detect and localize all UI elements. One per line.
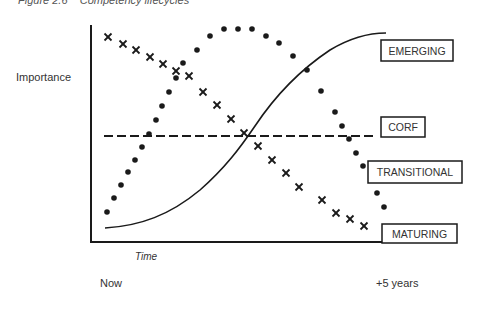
transitional-dot [153,117,159,123]
transitional-dot [132,157,138,163]
transitional-dot [207,33,213,39]
transitional-dot [381,204,387,210]
transitional-dot [180,60,186,66]
label-text: TRANSITIONAL [377,166,454,178]
maturing-x-mark [255,143,262,150]
transitional-dot [221,26,227,32]
maturing-x-mark [200,89,207,96]
transitional-dot [194,47,200,53]
maturing-x-mark [228,116,235,123]
maturing-x-mark [283,170,290,177]
transitional-dot [339,123,345,129]
transitional-dot [111,195,117,201]
label-box-corf: CORF [381,117,425,137]
transitional-dot [173,75,179,81]
transitional-dot [118,182,124,188]
maturing-x-mark [333,210,340,217]
maturing-x-mark [186,73,193,80]
transitional-dot [332,109,338,115]
transitional-dot [346,136,352,142]
maturing-x-mark [361,223,368,230]
x-tick-end: +5 years [376,277,419,289]
transitional-dot [104,209,110,215]
label-box-transitional: TRANSITIONAL [368,161,462,183]
transitional-dot [360,163,366,169]
maturing-x-mark [133,47,140,54]
transitional-dot [166,89,172,95]
competency-lifecycle-chart: EMERGINGCORFTRANSITIONALMATURING [0,0,482,311]
transitional-dot [263,33,269,39]
maturing-x-mark [241,130,248,137]
transitional-dot [235,26,241,32]
maturing-x-mark [296,184,303,191]
maturing-x-mark [147,54,154,61]
maturing-x-mark [319,197,326,204]
transitional-dot [125,169,131,175]
transitional-dot [353,150,359,156]
label-text: CORF [388,121,418,133]
maturing-x-mark [105,34,112,41]
transitional-dot [139,144,145,150]
transitional-dot [318,88,324,94]
transitional-dot [304,67,310,73]
transitional-dot [374,190,380,196]
maturing-x-mark [347,216,354,223]
x-axis-label-text: Time [135,251,157,262]
maturing-x-mark [173,68,180,75]
maturing-x-series [105,34,368,230]
maturing-x-mark [269,157,276,164]
transitional-dot [249,26,255,32]
maturing-x-mark [120,41,127,48]
maturing-x-mark [214,102,221,109]
series-label-boxes: EMERGINGCORFTRANSITIONALMATURING [368,40,462,243]
label-text: MATURING [392,228,447,240]
label-box-maturing: MATURING [382,224,457,243]
x-axis-label: Time [0,251,482,262]
maturing-x-mark [160,61,167,68]
x-tick-now: Now [100,277,122,289]
transitional-dot [290,53,296,59]
transitional-dot [146,131,152,137]
label-text: EMERGING [388,45,445,57]
label-box-emerging: EMERGING [381,40,453,61]
transitional-dot [159,103,165,109]
transitional-dot [276,40,282,46]
